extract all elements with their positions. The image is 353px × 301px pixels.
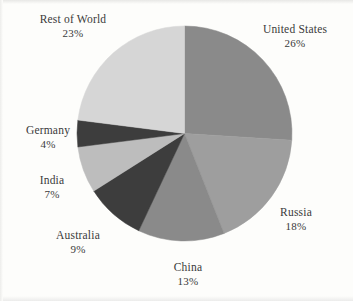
- pie-label-united-states: United States 26%: [243, 22, 347, 50]
- pie-label-germany: Germany 4%: [0, 123, 96, 151]
- pie-label-australia-value: 9%: [30, 242, 126, 256]
- pie-label-rest-of-world-value: 23%: [12, 26, 134, 40]
- pie-slice-rest-of-world: [78, 26, 185, 134]
- pie-chart-figure: United States 26% Russia 18% China 13% A…: [0, 0, 353, 301]
- pie-label-india-name: India: [40, 174, 65, 186]
- pie-label-united-states-value: 26%: [243, 36, 347, 50]
- pie-label-india: India 7%: [14, 173, 90, 201]
- pie-label-china-name: China: [174, 261, 202, 273]
- pie-label-russia: Russia 18%: [248, 205, 344, 233]
- pie-label-australia-name: Australia: [56, 229, 100, 241]
- pie-label-germany-value: 4%: [0, 137, 96, 151]
- pie-label-rest-of-world: Rest of World 23%: [12, 12, 134, 40]
- pie-label-australia: Australia 9%: [30, 228, 126, 256]
- pie-label-china-value: 13%: [140, 274, 236, 288]
- pie-label-russia-value: 18%: [248, 219, 344, 233]
- pie-label-united-states-name: United States: [263, 23, 327, 35]
- pie-label-germany-name: Germany: [26, 124, 70, 136]
- pie-label-rest-of-world-name: Rest of World: [40, 13, 107, 25]
- pie-label-india-value: 7%: [14, 187, 90, 201]
- pie-label-russia-name: Russia: [280, 206, 312, 218]
- pie-label-china: China 13%: [140, 260, 236, 288]
